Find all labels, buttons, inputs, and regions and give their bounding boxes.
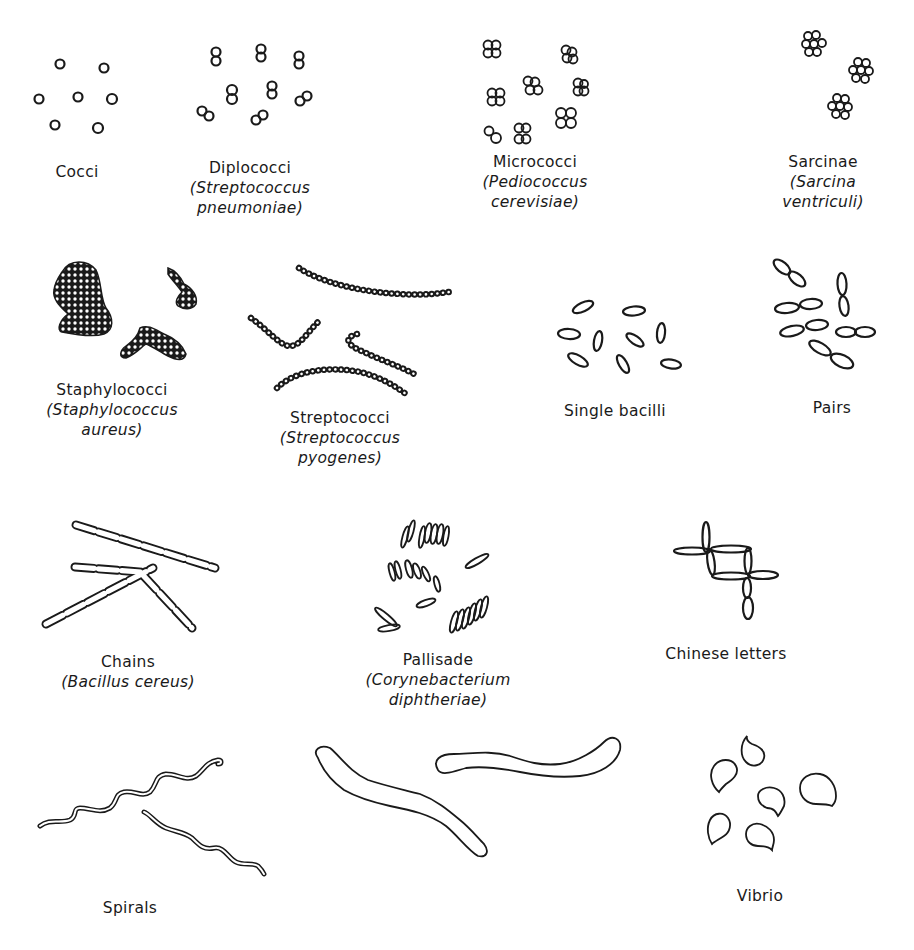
panel-chinese-letters: Chinese letters bbox=[640, 480, 840, 680]
chains-label: Chains (Bacillus cereus) bbox=[61, 652, 194, 692]
label-organism: pyogenes) bbox=[280, 448, 400, 468]
staphylococci-label: Staphylococci (Staphylococcus aureus) bbox=[46, 380, 178, 440]
label-name: Staphylococci bbox=[46, 380, 178, 400]
panel-sarcinae: Sarcinae (Sarcina ventriculi) bbox=[760, 0, 914, 230]
cropped-caption bbox=[320, 944, 580, 950]
label-name: Chains bbox=[61, 652, 194, 672]
label-name: Spirals bbox=[103, 898, 157, 918]
streptococci-label: Streptococci (Streptococcus pyogenes) bbox=[280, 408, 400, 468]
label-name: Pallisade bbox=[365, 650, 510, 670]
panel-micrococci: Micrococci (Pediococcus cerevisiae) bbox=[460, 0, 660, 230]
label-organism: (Corynebacterium bbox=[365, 670, 510, 690]
micrococci-label: Micrococci (Pediococcus cerevisiae) bbox=[482, 152, 587, 212]
label-name: Pairs bbox=[813, 398, 851, 418]
single-bacilli-label: Single bacilli bbox=[564, 401, 666, 421]
pairs-label: Pairs bbox=[813, 398, 851, 418]
panel-cocci: Cocci bbox=[0, 0, 150, 200]
vibrio-label: Vibrio bbox=[737, 886, 783, 906]
panel-pairs: Pairs bbox=[760, 230, 914, 410]
diplococci-label: Diplococci (Streptococcus pneumoniae) bbox=[190, 158, 310, 218]
label-organism: aureus) bbox=[46, 420, 178, 440]
sarcinae-label: Sarcinae (Sarcina ventriculi) bbox=[782, 152, 864, 212]
cocci-label: Cocci bbox=[55, 162, 98, 182]
panel-streptococci: Streptococci (Streptococcus pyogenes) bbox=[240, 230, 470, 480]
label-organism: (Sarcina bbox=[782, 172, 864, 192]
spirals-label: Spirals bbox=[103, 898, 157, 918]
label-name: Cocci bbox=[55, 162, 98, 182]
label-organism: pneumoniae) bbox=[190, 198, 310, 218]
label-organism: cerevisiae) bbox=[482, 192, 587, 212]
pallisade-label: Pallisade (Corynebacterium diphtheriae) bbox=[365, 650, 510, 710]
panel-single-bacilli: Single bacilli bbox=[540, 230, 720, 410]
panel-staphylococci: Staphylococci (Staphylococcus aureus) bbox=[0, 230, 230, 480]
label-name: Micrococci bbox=[482, 152, 587, 172]
label-organism: diphtheriae) bbox=[365, 690, 510, 710]
label-name: Streptococci bbox=[280, 408, 400, 428]
panel-diplococci: Diplococci (Streptococcus pneumoniae) bbox=[150, 0, 350, 230]
vibrio-illustration bbox=[690, 720, 914, 920]
single-bacilli-illustration bbox=[540, 230, 720, 410]
panel-chains: Chains (Bacillus cereus) bbox=[0, 480, 240, 710]
panel-spirals: Spirals bbox=[0, 720, 640, 920]
label-name: Diplococci bbox=[190, 158, 310, 178]
label-name: Chinese letters bbox=[665, 644, 786, 664]
label-name: Vibrio bbox=[737, 886, 783, 906]
label-organism: (Streptococcus bbox=[280, 428, 400, 448]
label-name: Sarcinae bbox=[782, 152, 864, 172]
label-organism: (Staphylococcus bbox=[46, 400, 178, 420]
label-name: Single bacilli bbox=[564, 401, 666, 421]
staphylococci-illustration bbox=[0, 230, 230, 480]
chinese-letters-label: Chinese letters bbox=[665, 644, 786, 664]
pairs-illustration bbox=[760, 230, 914, 410]
label-organism: (Bacillus cereus) bbox=[61, 672, 194, 692]
label-organism: (Streptococcus bbox=[190, 178, 310, 198]
spirals-illustration bbox=[0, 720, 640, 920]
panel-vibrio: Vibrio bbox=[690, 720, 914, 920]
label-organism: ventriculi) bbox=[782, 192, 864, 212]
panel-pallisade: Pallisade (Corynebacterium diphtheriae) bbox=[340, 500, 540, 730]
label-organism: (Pediococcus bbox=[482, 172, 587, 192]
